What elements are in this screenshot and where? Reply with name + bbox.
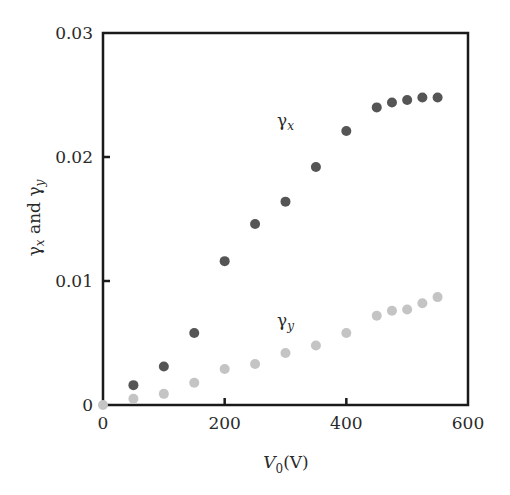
data-point: [250, 359, 260, 369]
scatter-chart: 020040060000.010.020.03 γxγy V0(V) γx an…: [0, 0, 510, 495]
data-point: [387, 97, 397, 107]
data-point: [341, 328, 351, 338]
data-point: [387, 306, 397, 316]
x-tick-label: 0: [98, 413, 109, 433]
data-point: [189, 378, 199, 388]
data-point: [417, 92, 427, 102]
data-point: [341, 126, 351, 136]
data-point: [220, 364, 230, 374]
series-labels: γxγy: [277, 110, 294, 333]
data-point: [128, 394, 138, 404]
data-point: [281, 197, 291, 207]
data-point: [128, 380, 138, 390]
data-point: [98, 400, 108, 410]
x-tick-label: 600: [452, 413, 484, 433]
data-point: [250, 219, 260, 229]
series-label: γx: [277, 110, 294, 133]
data-point: [159, 389, 169, 399]
tick-labels: 020040060000.010.020.03: [55, 23, 484, 433]
y-tick-label: 0.03: [55, 23, 93, 43]
data-points: [98, 92, 443, 410]
data-point: [372, 311, 382, 321]
x-tick-label: 200: [208, 413, 240, 433]
y-tick-label: 0: [82, 395, 93, 415]
data-point: [433, 292, 443, 302]
data-point: [311, 162, 321, 172]
x-tick-label: 400: [330, 413, 362, 433]
data-point: [372, 102, 382, 112]
series-label: γy: [277, 310, 294, 333]
y-tick-label: 0.01: [55, 271, 93, 291]
data-point: [159, 362, 169, 372]
data-point: [402, 95, 412, 105]
data-point: [189, 328, 199, 338]
data-point: [402, 305, 412, 315]
data-point: [220, 256, 230, 266]
data-point: [433, 92, 443, 102]
data-point: [417, 298, 427, 308]
y-axis-label: γx and γy: [24, 179, 47, 256]
x-axis-label: V0(V): [263, 452, 308, 476]
data-point: [311, 340, 321, 350]
data-point: [281, 348, 291, 358]
y-tick-label: 0.02: [55, 147, 93, 167]
